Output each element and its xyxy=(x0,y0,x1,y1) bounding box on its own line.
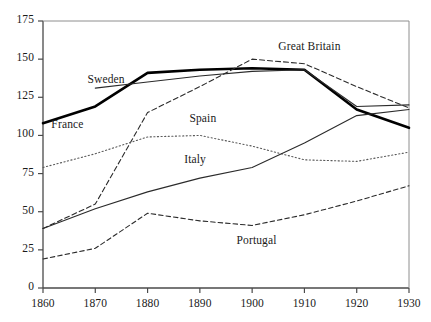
y-tick-label: 0 xyxy=(0,280,34,292)
series-label-spain: Spain xyxy=(189,112,216,124)
series-label-portugal: Portugal xyxy=(236,234,276,246)
x-tick-label: 1910 xyxy=(278,297,330,309)
series-label-italy: Italy xyxy=(184,153,206,165)
y-tick-label: 25 xyxy=(0,242,34,254)
series-line-portugal xyxy=(43,186,409,259)
chart-container: 0255075100125150175186018701880189019001… xyxy=(0,0,431,322)
x-tick-label: 1880 xyxy=(122,297,174,309)
x-tick-label: 1860 xyxy=(17,297,69,309)
x-tick-label: 1870 xyxy=(69,297,121,309)
y-tick-label: 75 xyxy=(0,166,34,178)
y-tick-label: 50 xyxy=(0,204,34,216)
line-chart-plot xyxy=(0,0,431,322)
series-line-italy xyxy=(43,109,409,228)
x-tick-label: 1920 xyxy=(331,297,383,309)
x-tick-label: 1890 xyxy=(174,297,226,309)
series-label-france: France xyxy=(51,118,83,130)
y-tick-label: 175 xyxy=(0,13,34,25)
y-tick-label: 150 xyxy=(0,51,34,63)
series-label-sweden: Sweden xyxy=(87,73,124,85)
y-tick-label: 125 xyxy=(0,89,34,101)
x-tick-label: 1930 xyxy=(383,297,431,309)
x-tick-label: 1900 xyxy=(226,297,278,309)
series-label-great-britain: Great Britain xyxy=(278,40,340,52)
series-line-spain xyxy=(43,135,409,167)
series-line-great-britain xyxy=(43,59,409,228)
y-tick-label: 100 xyxy=(0,127,34,139)
